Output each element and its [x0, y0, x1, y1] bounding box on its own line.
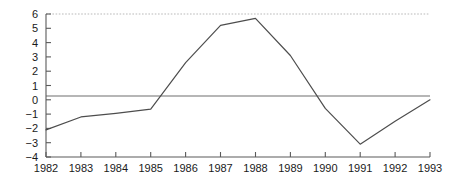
xtick-label: 1990: [313, 163, 337, 174]
xtick-label: 1985: [138, 163, 162, 174]
chart-plot-area: [0, 0, 460, 177]
xtick-label: 1987: [208, 163, 232, 174]
xtick-label: 1992: [383, 163, 407, 174]
xtick-label: 1984: [104, 163, 128, 174]
ytick-label: 5: [14, 23, 38, 34]
ytick-label: −1: [14, 109, 38, 120]
chart-figure: 6 5 4 3 2 1 0 −1 −2 −3 −4 1982 1983 1984…: [0, 0, 460, 177]
ytick-label: −2: [14, 123, 38, 134]
xtick-label: 1983: [69, 163, 93, 174]
xtick-label: 1991: [348, 163, 372, 174]
xtick-label: 1986: [173, 163, 197, 174]
xtick-label: 1988: [243, 163, 267, 174]
ytick-label: 2: [14, 66, 38, 77]
ytick-label: 0: [14, 94, 38, 105]
data-series-line: [46, 18, 430, 144]
ytick-label: 4: [14, 37, 38, 48]
xtick-label: 1993: [418, 163, 442, 174]
x-axis-ticks: [46, 152, 430, 157]
y-axis-ticks: [46, 14, 51, 157]
xtick-label: 1982: [34, 163, 58, 174]
ytick-label: −4: [14, 152, 38, 163]
ytick-label: −3: [14, 137, 38, 148]
ytick-label: 3: [14, 51, 38, 62]
xtick-label: 1989: [278, 163, 302, 174]
ytick-label: 1: [14, 80, 38, 91]
ytick-label: 6: [14, 9, 38, 20]
